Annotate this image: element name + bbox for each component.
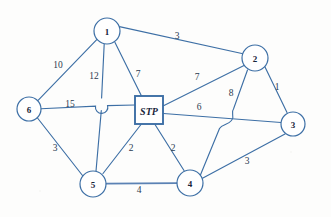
node-2[interactable]: 2 — [242, 45, 268, 71]
stp-hub[interactable]: STP — [135, 96, 163, 124]
edge-weight-1-2: 3 — [175, 31, 180, 41]
edge-weight-1-5: 12 — [89, 71, 99, 81]
node-1-label: 1 — [105, 27, 110, 37]
edge-1-5-upper — [102, 44, 105, 98]
edge-weight-1-6: 10 — [53, 60, 63, 70]
edge-1-6 — [38, 39, 97, 100]
edge-2-stp — [163, 66, 244, 107]
edge-weight-stp-5: 2 — [129, 143, 134, 153]
node-4[interactable]: 4 — [177, 170, 203, 196]
network-graph-figure: STP 1 2 3 4 5 — [0, 0, 331, 217]
edge-stp-4 — [155, 125, 184, 171]
edge-weight-5-4: 4 — [137, 185, 142, 195]
edge-weight-2-4: 8 — [229, 88, 234, 98]
edge-weight-2-3: 1 — [275, 82, 280, 92]
edge-1-5-lower — [96, 111, 101, 172]
edge-weight-6-5: 3 — [53, 143, 58, 153]
edge-stp-5 — [103, 125, 141, 174]
node-5[interactable]: 5 — [80, 171, 106, 197]
edge-6-5 — [38, 118, 83, 176]
edge-weight-stp-3: 6 — [197, 102, 202, 112]
node-6-label: 6 — [27, 105, 32, 115]
edge-weight-4-3: 3 — [245, 156, 250, 166]
edge-weight-6-stp: 15 — [65, 99, 75, 109]
edge-weight-stp-4: 2 — [171, 143, 176, 153]
node-3-label: 3 — [291, 120, 296, 130]
edge-stp-3 — [164, 114, 282, 123]
edge-1-2 — [119, 27, 243, 54]
node-3[interactable]: 3 — [281, 112, 305, 136]
node-6[interactable]: 6 — [17, 97, 41, 121]
graph-canvas: STP 1 2 3 4 5 — [0, 0, 331, 217]
edge-weight-2-stp: 7 — [195, 72, 200, 82]
stp-hub-label: STP — [140, 106, 159, 117]
edge-weight-1-stp: 7 — [136, 69, 141, 79]
node-2-label: 2 — [253, 54, 258, 64]
node-4-label: 4 — [188, 179, 193, 189]
node-5-label: 5 — [91, 180, 96, 190]
edge-6-stp — [41, 105, 135, 113]
edge-2-4 — [200, 70, 248, 176]
node-1[interactable]: 1 — [94, 18, 120, 44]
